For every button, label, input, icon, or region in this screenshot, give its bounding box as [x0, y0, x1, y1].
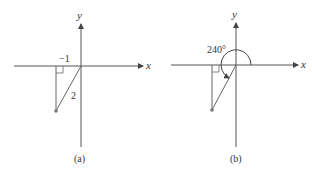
point-marker	[54, 109, 58, 113]
point-marker	[210, 108, 214, 112]
caption-a: (a)	[74, 153, 85, 165]
y-axis-label: y	[76, 9, 82, 21]
caption-b: (b)	[230, 153, 242, 165]
right-angle-marker	[56, 66, 63, 73]
x-axis-label: x	[300, 58, 306, 70]
right-angle-marker	[212, 65, 219, 72]
leg-label: −1	[59, 53, 70, 64]
panel-a: x y −1 2 (a)	[14, 9, 151, 165]
figure: x y −1 2 (a) x y 240° (b)	[0, 0, 312, 173]
angle-label: 240°	[207, 44, 226, 55]
hypotenuse-label: 2	[71, 90, 76, 101]
panel-b: x y 240° (b)	[171, 8, 306, 165]
y-axis-label: y	[231, 8, 237, 20]
x-axis-label: x	[145, 59, 151, 71]
